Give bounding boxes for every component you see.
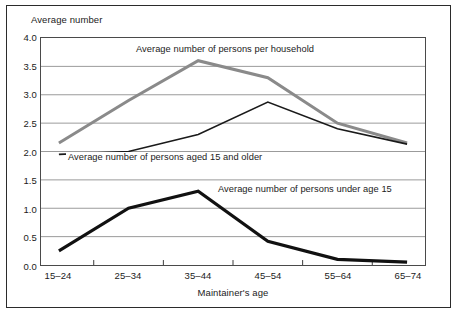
series-annotation-1: Average number of persons aged 15 and ol… [66, 152, 264, 162]
y-axis-tick-label: 4.0 [3, 32, 37, 43]
y-axis-tick-label: 2.0 [3, 146, 37, 157]
y-axis-tick-label: 0.5 [3, 232, 37, 243]
y-axis-tick-label: 1.0 [3, 203, 37, 214]
y-axis-tick-label: 3.0 [3, 89, 37, 100]
y-axis-tick-label: 0.0 [3, 261, 37, 272]
series-annotation-0: Average number of persons per household [134, 44, 316, 54]
y-axis-tick-label: 2.5 [3, 117, 37, 128]
y-axis-title: Average number [31, 14, 102, 25]
x-axis-tick-label: 55–64 [325, 270, 352, 281]
x-axis-tick-label: 25–34 [115, 270, 142, 281]
y-axis-tick-labels: 0.00.51.01.52.02.53.03.54.0 [0, 37, 37, 266]
y-axis-tick-label: 3.5 [3, 60, 37, 71]
series-annotation-2: Average number of persons under age 15 [216, 184, 394, 194]
series-line-2 [59, 191, 407, 262]
x-axis-tick-label: 45–54 [255, 270, 282, 281]
x-axis-ticks [94, 260, 373, 265]
x-axis-tick-label: 35–44 [185, 270, 212, 281]
x-axis-tick-label: 15–24 [45, 270, 72, 281]
series-line-0 [59, 61, 407, 143]
x-axis-tick-label: 65–74 [395, 270, 422, 281]
x-axis-title: Maintainer's age [40, 287, 426, 298]
y-axis-tick-label: 1.5 [3, 175, 37, 186]
chart-figure: Average number 0.00.51.01.52.02.53.03.54… [0, 0, 457, 314]
